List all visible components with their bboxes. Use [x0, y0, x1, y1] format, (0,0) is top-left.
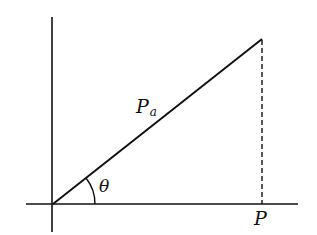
angle-theta-arc	[86, 178, 95, 204]
vector-label-pa: Pa	[136, 97, 157, 118]
angle-label-theta: θ	[99, 178, 109, 195]
diagram-canvas: Pa θ P	[0, 0, 317, 235]
diagram-svg	[0, 0, 317, 235]
projection-label-p: P	[254, 209, 267, 228]
vector-pa-line	[53, 39, 262, 204]
vector-label-subscript: a	[150, 105, 157, 119]
